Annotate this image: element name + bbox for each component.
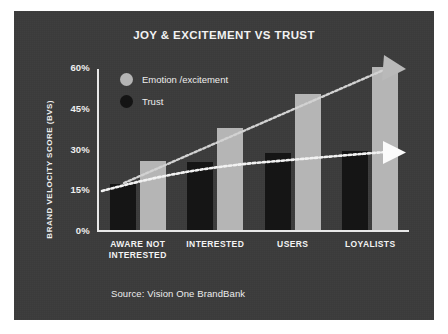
y-axis-tick-label: 60% — [70, 62, 90, 73]
x-axis-category-label: LOYALISTS — [332, 239, 410, 250]
bar-trust[interactable] — [110, 184, 136, 230]
legend-label-trust: Trust — [142, 96, 163, 107]
y-axis-tick-label: 30% — [70, 143, 90, 154]
bar-emotion[interactable] — [140, 161, 166, 230]
legend-item-trust: Trust — [120, 95, 228, 108]
chart-legend: Emotion /excitement Trust — [120, 73, 228, 117]
legend-swatch-trust-icon — [120, 95, 133, 108]
x-axis-category-label: AWARE NOTINTERESTED — [99, 239, 177, 261]
bar-emotion[interactable] — [295, 94, 321, 230]
chart-screenshot: JOY & EXCITEMENT VS TRUST BRAND VELOCITY… — [0, 0, 448, 334]
y-axis-tick-label: 45% — [70, 102, 90, 113]
y-axis-title: BRAND VELOCITY SCORE (BVS) — [45, 100, 54, 239]
x-axis-line — [97, 230, 409, 232]
bar-trust[interactable] — [187, 162, 213, 230]
x-axis-category-label: USERS — [254, 239, 332, 250]
x-axis-category-label: INTERESTED — [177, 239, 255, 250]
bar-emotion[interactable] — [372, 67, 398, 230]
bar-group: USERS — [254, 58, 332, 230]
chart-card: JOY & EXCITEMENT VS TRUST BRAND VELOCITY… — [14, 11, 434, 320]
bar-trust[interactable] — [265, 153, 291, 230]
legend-label-emotion: Emotion /excitement — [142, 74, 228, 85]
bar-emotion[interactable] — [217, 128, 243, 230]
bar-group: LOYALISTS — [332, 58, 410, 230]
legend-swatch-emotion-icon — [120, 73, 133, 86]
legend-item-emotion: Emotion /excitement — [120, 73, 228, 86]
y-axis-tick-label: 0% — [76, 225, 90, 236]
source-caption: Source: Vision One BrandBank — [111, 288, 245, 299]
chart-title: JOY & EXCITEMENT VS TRUST — [14, 29, 434, 41]
y-axis-tick-label: 15% — [70, 184, 90, 195]
bar-trust[interactable] — [342, 151, 368, 230]
